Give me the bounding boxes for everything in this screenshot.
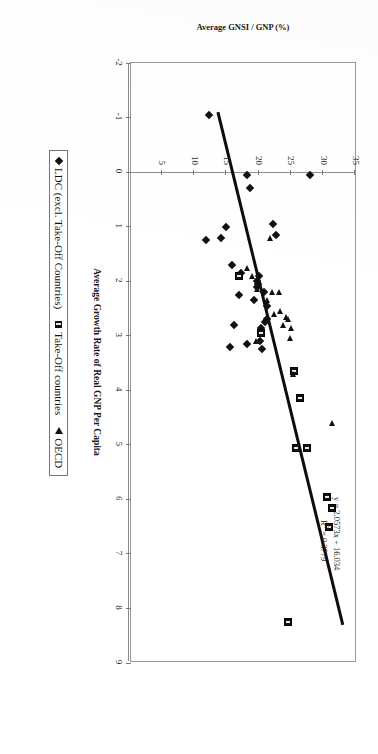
chart-legend: LDC (excl. Take-Off Countries)Take-Off c… xyxy=(49,150,68,476)
x-tick-label: 0 xyxy=(114,169,124,174)
r-squared-annotation: R2 = 0.3779 xyxy=(318,520,331,561)
triangle-icon xyxy=(55,427,63,434)
data-point-ldc xyxy=(225,342,233,350)
x-axis-tick xyxy=(127,63,132,64)
data-point-oecd xyxy=(287,335,293,341)
data-point-oecd xyxy=(271,311,277,317)
trend-line xyxy=(129,63,355,663)
x-axis-tick xyxy=(127,390,132,391)
data-point-ldc xyxy=(246,184,254,192)
data-point-ldc xyxy=(235,291,243,299)
y-axis-tick xyxy=(161,170,162,175)
x-axis-tick xyxy=(127,172,132,173)
x-axis-tick xyxy=(127,663,132,664)
data-point-oecd xyxy=(288,325,294,331)
data-point-ldc xyxy=(222,222,230,230)
data-point-oecd xyxy=(280,322,286,328)
x-axis-tick xyxy=(127,226,132,227)
x-axis-tick xyxy=(127,553,132,554)
x-tick-label: 4 xyxy=(114,387,124,392)
x-axis-tick xyxy=(127,499,132,500)
data-point-oecd xyxy=(255,286,261,292)
x-tick-label: 3 xyxy=(114,332,124,337)
data-point-ldc xyxy=(260,288,268,296)
data-point-ldc xyxy=(228,261,236,269)
x-axis-tick xyxy=(127,608,132,609)
y-axis-tick xyxy=(225,170,226,175)
legend-item: LDC (excl. Take-Off Countries) xyxy=(53,158,65,309)
data-point-oecd xyxy=(244,265,250,271)
data-point-oecd xyxy=(329,420,335,426)
data-point-oecd xyxy=(253,338,259,344)
data-point-ldc xyxy=(205,111,213,119)
data-point-ldc xyxy=(230,321,238,329)
x-axis-tick xyxy=(127,335,132,336)
data-point-oecd xyxy=(264,297,270,303)
diamond-icon xyxy=(55,157,63,165)
x-axis-line xyxy=(129,63,130,661)
y-tick-label: 10 xyxy=(190,156,200,165)
data-point-takeoff xyxy=(292,444,300,452)
data-point-oecd xyxy=(290,371,296,377)
y-tick-label: 35 xyxy=(351,156,361,165)
data-point-ldc xyxy=(216,233,224,241)
y-axis-tick xyxy=(193,170,194,175)
x-axis-tick xyxy=(127,281,132,282)
regression-equation: y = 2.0573x + 16.034 xyxy=(331,497,342,570)
y-axis-tick xyxy=(290,170,291,175)
data-point-ldc xyxy=(269,220,277,228)
legend-item-label: Take-Off countries xyxy=(53,332,65,415)
r-squared-value: = 0.3779 xyxy=(319,529,329,561)
data-point-takeoff xyxy=(257,329,265,337)
x-tick-label: -1 xyxy=(114,113,124,121)
data-point-oecd xyxy=(269,289,275,295)
x-tick-label: -2 xyxy=(114,58,124,66)
data-point-oecd xyxy=(267,235,273,241)
x-tick-label: 6 xyxy=(114,496,124,501)
y-tick-label: 20 xyxy=(254,156,264,165)
legend-item: Take-Off countries xyxy=(53,321,65,415)
x-tick-label: 1 xyxy=(114,223,124,228)
legend-item-label: LDC (excl. Take-Off Countries) xyxy=(53,168,65,309)
data-point-ldc xyxy=(258,345,266,353)
x-tick-label: 2 xyxy=(114,278,124,283)
data-point-ldc xyxy=(242,340,250,348)
data-point-takeoff xyxy=(284,618,292,626)
x-axis-title: Average Growth Rate of Real GNP Per Capi… xyxy=(92,62,102,662)
data-point-ldc xyxy=(202,236,210,244)
y-axis-title: Average GNSI / GNP (%) xyxy=(130,22,356,32)
data-point-oecd xyxy=(249,273,255,279)
data-point-takeoff xyxy=(235,272,243,280)
y-axis-tick xyxy=(322,170,323,175)
x-tick-label: 7 xyxy=(114,551,124,556)
legend-item-label: OECD xyxy=(53,438,65,468)
x-axis-tick xyxy=(127,117,132,118)
x-axis-tick xyxy=(127,444,132,445)
data-point-oecd xyxy=(276,289,282,295)
x-tick-label: 5 xyxy=(114,442,124,447)
square-icon xyxy=(56,321,63,328)
y-tick-label: 5 xyxy=(157,161,167,166)
y-tick-label: 15 xyxy=(222,156,232,165)
x-tick-label: 9 xyxy=(114,660,124,665)
y-tick-label: 30 xyxy=(319,156,329,165)
y-axis-tick xyxy=(258,170,259,175)
x-tick-label: 8 xyxy=(114,605,124,610)
data-point-takeoff xyxy=(296,394,304,402)
plot-area xyxy=(130,62,356,662)
scatter-plot-figure: -2-101234567895101520253035 Average Grow… xyxy=(0,0,378,754)
data-point-ldc xyxy=(249,296,257,304)
plot-canvas xyxy=(131,63,355,661)
y-tick-label: 25 xyxy=(286,156,296,165)
y-axis-tick xyxy=(355,170,356,175)
legend-item: OECD xyxy=(53,427,65,468)
data-point-takeoff xyxy=(303,444,311,452)
